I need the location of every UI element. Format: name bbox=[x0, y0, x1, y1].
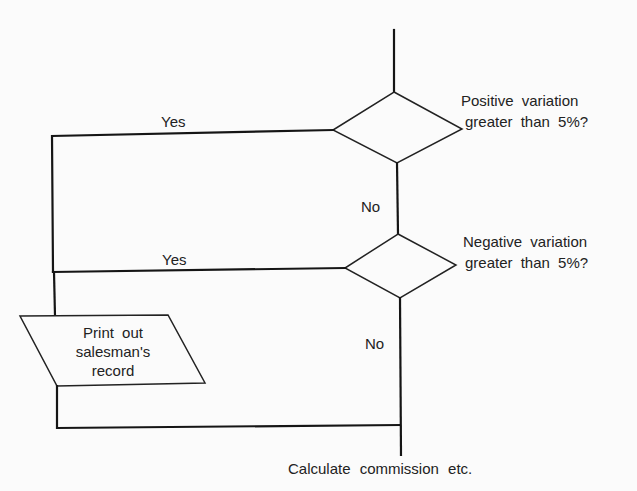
print-record-line1: Print out bbox=[53, 323, 173, 342]
yes-line-2 bbox=[53, 268, 345, 272]
decision-text-negative-line2: greater than 5%? bbox=[465, 252, 588, 273]
decision-text-negative-line1: Negative variation bbox=[463, 231, 588, 252]
decision-text-negative: Negative variation greater than 5%? bbox=[463, 231, 588, 273]
decision-diamond-positive bbox=[333, 92, 462, 163]
no-line-1 bbox=[397, 163, 398, 234]
print-record-line2: salesman's bbox=[53, 342, 173, 361]
decision-diamond-negative bbox=[345, 234, 456, 298]
terminal-text: Calculate commission etc. bbox=[288, 460, 472, 477]
no-label-2: No bbox=[365, 335, 384, 352]
decision-text-positive-line1: Positive variation bbox=[461, 90, 588, 111]
decision-text-positive: Positive variation greater than 5%? bbox=[461, 90, 588, 132]
no-label-1: No bbox=[361, 198, 380, 215]
yes-label-1: Yes bbox=[161, 113, 185, 130]
yes-label-2: Yes bbox=[162, 251, 186, 268]
yes-line-1 bbox=[52, 130, 333, 272]
merge-line bbox=[57, 386, 400, 428]
decision-text-positive-line2: greater than 5%? bbox=[465, 111, 588, 132]
print-record-line3: record bbox=[53, 361, 173, 380]
print-record-text: Print out salesman's record bbox=[53, 323, 173, 380]
no-line-2 bbox=[400, 298, 401, 455]
to-print-line bbox=[54, 272, 55, 316]
